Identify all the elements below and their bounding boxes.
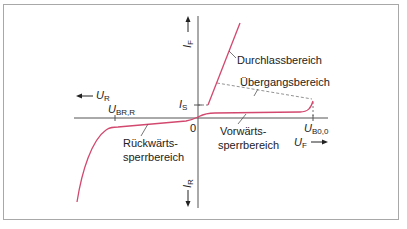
if-arrow-icon [186, 16, 191, 32]
ir-arrow-icon [186, 190, 191, 207]
ur-arrow-icon [76, 94, 93, 99]
label-if: IF [182, 40, 195, 48]
characteristic-plot [0, 0, 407, 229]
label-ur: UR [96, 90, 110, 103]
label-uebergangsbereich: Übergangsbereich [240, 77, 330, 88]
label-is: IS [179, 99, 187, 112]
label-ubr: UBR,R [108, 104, 135, 117]
label-rueckwaerts-2: sperrbereich [123, 152, 184, 163]
label-ubo: UB0,0 [304, 123, 328, 136]
label-ir: IR [182, 179, 195, 188]
leader-rueckwaerts [141, 124, 148, 136]
label-vorwaerts-1: Vorwärts- [220, 126, 266, 137]
label-rueckwaerts-1: Rückwärts- [123, 138, 178, 149]
label-vorwaerts-2: sperrbereich [218, 140, 279, 151]
uf-arrow-icon [311, 140, 328, 145]
on-state-line [208, 23, 240, 105]
leader-uebergang [254, 89, 258, 96]
leader-durchlass [229, 51, 236, 58]
label-origin: 0 [190, 123, 196, 134]
leader-vorwaerts [238, 114, 246, 124]
label-uf: UF [294, 137, 307, 150]
label-durchlassbereich: Durchlassbereich [237, 55, 322, 66]
